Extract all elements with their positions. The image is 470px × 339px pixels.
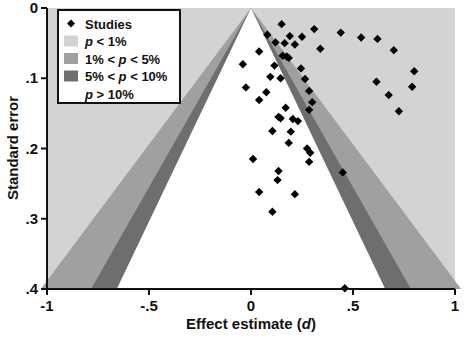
x-axis-title-prefix: Effect estimate (	[186, 315, 302, 332]
legend-swatch	[64, 71, 78, 82]
y-tick-label: .3	[25, 210, 38, 227]
y-tick-label: .2	[25, 140, 38, 157]
x-tick-label: .5	[347, 297, 360, 314]
legend-item-label: Studies	[85, 17, 132, 32]
legend-item-label: 1% < p < 5%	[85, 52, 161, 67]
x-tick-label: -.5	[140, 297, 158, 314]
legend-swatch	[64, 36, 78, 47]
x-axis-tick-labels: -1-.50.51	[40, 297, 459, 314]
x-axis-title-suffix: )	[311, 315, 316, 332]
y-tick-label: .4	[25, 280, 38, 297]
funnel-plot-figure: 0.1.2.3.4 -1-.50.51 Standard error Effec…	[0, 0, 470, 339]
y-axis-tick-labels: 0.1.2.3.4	[25, 0, 38, 297]
funnel-plot-svg: 0.1.2.3.4 -1-.50.51 Standard error Effec…	[0, 0, 470, 339]
x-tick-label: -1	[40, 297, 53, 314]
x-tick-label: 1	[451, 297, 459, 314]
legend-item-label: p < 1%	[84, 34, 127, 49]
y-tick-label: 0	[30, 0, 38, 16]
x-tick-label: 0	[247, 297, 255, 314]
legend: Studiesp < 1%1% < p < 5%5% < p < 10%p > …	[58, 10, 180, 103]
x-axis-title: Effect estimate (d)	[186, 315, 316, 332]
legend-swatch	[64, 53, 78, 64]
legend-item-label: p > 10%	[84, 87, 134, 102]
y-tick-label: .1	[25, 69, 38, 86]
legend-item-label: 5% < p < 10%	[85, 69, 168, 84]
y-axis-title: Standard error	[4, 96, 21, 200]
